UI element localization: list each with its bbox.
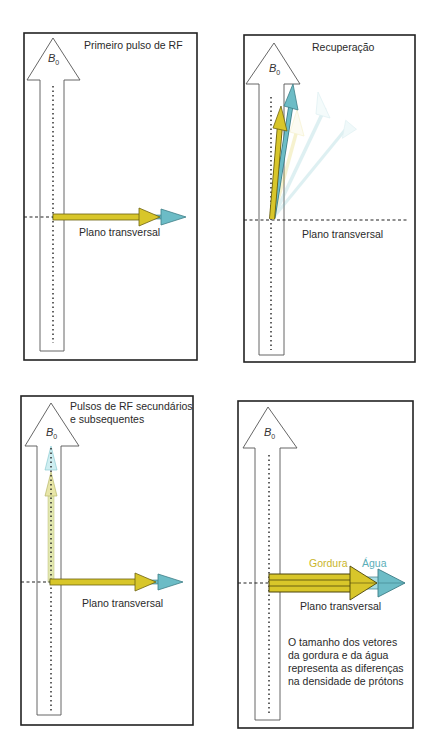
note-line: representa as diferenças	[288, 662, 404, 675]
panel-4-note: O tamanho dos vetores da gordura e da ág…	[288, 636, 404, 688]
panel-pulsos-secundarios	[21, 396, 193, 725]
diagram-canvas	[0, 0, 431, 744]
note-line: na densidade de prótons	[288, 675, 404, 688]
b0-label: B0	[46, 426, 57, 440]
panel-3-title-line2: e subsequentes	[70, 413, 144, 425]
panel-2-title: Recuperação	[312, 41, 374, 53]
legend-water: Água	[362, 557, 387, 569]
b0-subscript: 0	[53, 433, 57, 440]
panel-4-plane-label: Plano transversal	[300, 600, 381, 612]
panel-3-title-line1: Pulsos de RF secundários	[70, 400, 193, 412]
panel-recuperacao	[244, 35, 415, 362]
b0-subscript: 0	[271, 433, 275, 440]
b0-subscript: 0	[55, 59, 59, 66]
b0-label: B0	[269, 62, 280, 76]
b0-label: B0	[48, 52, 59, 66]
legend-fat: Gordura	[309, 557, 348, 569]
note-line: da gordura e da água	[288, 649, 404, 662]
panel-3-plane-label: Plano transversal	[82, 597, 163, 609]
panel-1-title: Primeiro pulso de RF	[84, 39, 183, 51]
panel-1-plane-label: Plano transversal	[79, 226, 160, 238]
note-line: O tamanho dos vetores	[288, 636, 404, 649]
panel-2-plane-label: Plano transversal	[302, 228, 383, 240]
b0-label: B0	[264, 426, 275, 440]
panel-primeiro-pulso	[24, 33, 197, 360]
b0-subscript: 0	[276, 69, 280, 76]
